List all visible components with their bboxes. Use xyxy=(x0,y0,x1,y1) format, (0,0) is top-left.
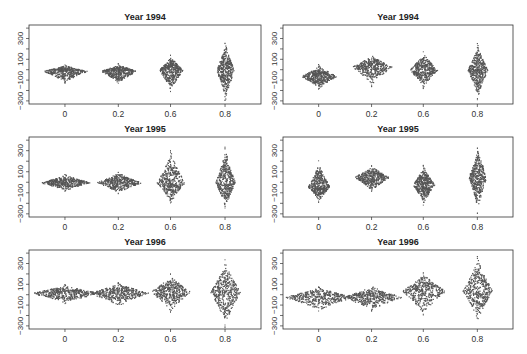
panel-title: Year 1995 xyxy=(377,124,419,134)
panel-4: Year 199500.20.60.8−300−100100300 xyxy=(270,124,513,232)
y-tick-label: 100 xyxy=(16,277,25,291)
x-tick-label: 0.2 xyxy=(112,222,124,232)
y-tick-label: −300 xyxy=(270,91,279,110)
figure: Year 199400.20.60.8−300−100100300Year 19… xyxy=(0,0,527,354)
y-tick-label: −300 xyxy=(270,316,279,335)
x-tick-label: 0 xyxy=(316,222,321,232)
x-axis: 00.20.60.8 xyxy=(316,217,483,232)
y-axis: −300−100100300 xyxy=(270,140,283,223)
x-axis: 00.20.60.8 xyxy=(63,329,232,344)
panel-title: Year 1995 xyxy=(124,124,166,134)
x-tick-label: 0.8 xyxy=(471,222,483,232)
y-axis: −300−100100300 xyxy=(16,140,29,223)
x-tick-label: 0 xyxy=(63,109,68,119)
panel-title: Year 1996 xyxy=(377,237,419,247)
x-tick-label: 0.2 xyxy=(112,334,124,344)
y-tick-label: −100 xyxy=(16,71,25,90)
y-axis: −300−100100300 xyxy=(270,253,283,335)
data-points xyxy=(302,43,488,100)
y-tick-label: 300 xyxy=(16,256,25,270)
x-axis: 00.20.60.8 xyxy=(316,329,483,344)
panel-5: Year 199600.20.60.8−300−100100300 xyxy=(16,237,261,344)
x-tick-label: 0.2 xyxy=(366,222,378,232)
x-axis: 00.20.60.8 xyxy=(63,217,232,232)
y-tick-label: −300 xyxy=(16,91,25,110)
y-tick-label: −100 xyxy=(270,183,279,202)
panel-title: Year 1996 xyxy=(124,237,166,247)
y-axis: −300−100100300 xyxy=(16,28,29,110)
panel-3: Year 199500.20.60.8−300−100100300 xyxy=(16,124,261,232)
data-points xyxy=(34,259,241,328)
panel-1: Year 199400.20.60.8−300−100100300 xyxy=(16,12,261,119)
data-points xyxy=(45,43,235,101)
y-axis: −300−100100300 xyxy=(16,253,29,335)
plot-frame xyxy=(283,250,513,329)
y-tick-label: 100 xyxy=(270,277,279,291)
y-tick-label: 100 xyxy=(270,52,279,66)
y-tick-label: −100 xyxy=(270,296,279,315)
x-tick-label: 0.6 xyxy=(417,109,429,119)
y-tick-label: 100 xyxy=(16,52,25,66)
y-tick-label: 300 xyxy=(270,31,279,45)
x-tick-label: 0.8 xyxy=(471,109,483,119)
data-points xyxy=(286,256,493,319)
x-tick-label: 0.8 xyxy=(219,109,231,119)
y-tick-label: −300 xyxy=(16,316,25,335)
x-tick-label: 0 xyxy=(63,334,68,344)
x-tick-label: 0.8 xyxy=(471,334,483,344)
data-points xyxy=(42,147,236,209)
x-tick-label: 0.2 xyxy=(366,334,378,344)
x-tick-label: 0.6 xyxy=(417,222,429,232)
y-tick-label: 100 xyxy=(16,165,25,179)
panel-6: Year 199600.20.60.8−300−100100300 xyxy=(270,237,513,344)
panel-title: Year 1994 xyxy=(377,12,419,22)
y-tick-label: −300 xyxy=(270,204,279,223)
x-tick-label: 0 xyxy=(63,222,68,232)
x-tick-label: 0 xyxy=(316,109,321,119)
x-tick-label: 0.6 xyxy=(165,334,177,344)
y-tick-label: 300 xyxy=(270,256,279,270)
y-tick-label: 100 xyxy=(270,165,279,179)
y-tick-label: 300 xyxy=(16,143,25,157)
panel-title: Year 1994 xyxy=(124,12,166,22)
x-tick-label: 0.6 xyxy=(165,222,177,232)
x-tick-label: 0 xyxy=(316,334,321,344)
y-tick-label: −100 xyxy=(270,71,279,90)
y-tick-label: 300 xyxy=(16,31,25,45)
y-tick-label: −100 xyxy=(16,183,25,202)
x-tick-label: 0.6 xyxy=(417,334,429,344)
y-tick-label: −300 xyxy=(16,204,25,223)
x-tick-label: 0.6 xyxy=(165,109,177,119)
data-points xyxy=(308,147,486,214)
y-tick-label: −100 xyxy=(16,296,25,315)
y-tick-label: 300 xyxy=(270,143,279,157)
x-tick-label: 0.2 xyxy=(366,109,378,119)
x-tick-label: 0.8 xyxy=(219,222,231,232)
panel-2: Year 199400.20.60.8−300−100100300 xyxy=(270,12,513,119)
y-axis: −300−100100300 xyxy=(270,28,283,110)
x-axis: 00.20.60.8 xyxy=(63,104,232,119)
x-axis: 00.20.60.8 xyxy=(316,104,483,119)
x-tick-label: 0.8 xyxy=(219,334,231,344)
x-tick-label: 0.2 xyxy=(112,109,124,119)
